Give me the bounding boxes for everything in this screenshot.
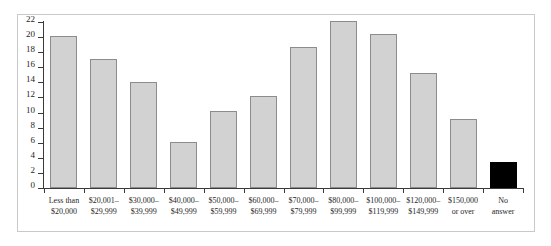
- x-category-label: Less than$20,000: [44, 196, 84, 217]
- x-category-label-line: or over: [443, 207, 483, 218]
- x-category-label: $50,000–$59,999: [204, 196, 244, 217]
- x-category-label: $150,000or over: [443, 196, 483, 217]
- x-category-label-line: $39,999: [124, 207, 164, 218]
- bar-chart-figure: 0246810121416182022 Less than$20,000$20,…: [0, 0, 551, 246]
- x-category-label: $120,000–$149,999: [403, 196, 443, 217]
- y-tick-label: 10: [26, 106, 35, 115]
- x-category-label-line: $99,999: [323, 207, 363, 218]
- x-category-label-line: $50,000–: [204, 196, 244, 207]
- x-tick-mark: [523, 188, 524, 193]
- bar: [130, 82, 157, 188]
- x-category-label-line: $149,999: [403, 207, 443, 218]
- bar: [90, 59, 117, 188]
- y-tick-mark: [38, 143, 43, 144]
- bar: [330, 21, 357, 189]
- bar: [290, 47, 317, 188]
- bar: [450, 119, 477, 188]
- x-category-label-line: $30,000–: [124, 196, 164, 207]
- y-tick-mark: [38, 173, 43, 174]
- bar: [410, 73, 437, 188]
- y-tick-mark: [38, 158, 43, 159]
- bar: [250, 96, 277, 188]
- y-tick-label: 16: [26, 60, 35, 69]
- y-tick-label: 8: [31, 121, 36, 130]
- y-tick-mark: [38, 67, 43, 68]
- y-tick-mark: [38, 97, 43, 98]
- x-tick-mark: [84, 188, 85, 193]
- x-category-label: $70,000–$79,999: [284, 196, 324, 217]
- y-tick-label: 14: [26, 75, 35, 84]
- x-category-label-line: $150,000: [443, 196, 483, 207]
- y-tick-label: 4: [31, 151, 36, 160]
- y-tick-mark: [38, 37, 43, 38]
- x-tick-mark: [403, 188, 404, 193]
- x-category-label: $60,000–$69,999: [244, 196, 284, 217]
- y-tick-mark: [38, 113, 43, 114]
- x-tick-mark: [204, 188, 205, 193]
- x-category-label-line: No: [483, 196, 523, 207]
- x-category-label: Noanswer: [483, 196, 523, 217]
- bar: [50, 36, 77, 188]
- y-tick-label: 20: [26, 30, 35, 39]
- y-tick-label: 0: [31, 181, 36, 190]
- x-tick-mark: [284, 188, 285, 193]
- y-tick-label: 22: [26, 15, 35, 24]
- bar: [210, 111, 237, 188]
- x-tick-mark: [443, 188, 444, 193]
- x-category-label-line: $70,000–: [284, 196, 324, 207]
- x-category-label-line: answer: [483, 207, 523, 218]
- x-category-label: $40,000–$49,999: [164, 196, 204, 217]
- y-tick-mark: [38, 128, 43, 129]
- x-category-label: $30,000–$39,999: [124, 196, 164, 217]
- y-tick-mark: [38, 52, 43, 53]
- y-tick-label: 18: [26, 45, 35, 54]
- x-category-label: $20,001–$29,999: [84, 196, 124, 217]
- bar: [170, 142, 197, 188]
- x-category-label-line: $60,000–: [244, 196, 284, 207]
- y-tick-mark: [38, 82, 43, 83]
- y-tick-mark: [38, 188, 43, 189]
- x-tick-mark: [164, 188, 165, 193]
- plot-area: [44, 22, 523, 188]
- x-category-label-line: $119,999: [363, 207, 403, 218]
- bar: [370, 34, 397, 188]
- x-tick-mark: [244, 188, 245, 193]
- x-tick-mark: [363, 188, 364, 193]
- x-category-label-line: $59,999: [204, 207, 244, 218]
- bar: [490, 162, 517, 188]
- x-category-label-line: $20,001–: [84, 196, 124, 207]
- x-tick-mark: [323, 188, 324, 193]
- y-tick-mark: [38, 22, 43, 23]
- x-category-label-line: $80,000–: [323, 196, 363, 207]
- x-category-label-line: Less than: [44, 196, 84, 207]
- x-category-label-line: $100,000–: [363, 196, 403, 207]
- x-tick-mark: [44, 188, 45, 193]
- x-category-label-line: $69,999: [244, 207, 284, 218]
- x-tick-mark: [483, 188, 484, 193]
- x-category-label-line: $49,999: [164, 207, 204, 218]
- y-tick-label: 6: [31, 136, 36, 145]
- y-tick-label: 12: [26, 90, 35, 99]
- x-category-label-line: $29,999: [84, 207, 124, 218]
- x-tick-mark: [124, 188, 125, 193]
- x-category-label: $100,000–$119,999: [363, 196, 403, 217]
- x-category-label: $80,000–$99,999: [323, 196, 363, 217]
- y-tick-label: 2: [31, 166, 36, 175]
- x-category-label-line: $79,999: [284, 207, 324, 218]
- x-category-label-line: $20,000: [44, 207, 84, 218]
- x-category-label-line: $40,000–: [164, 196, 204, 207]
- x-category-label-line: $120,000–: [403, 196, 443, 207]
